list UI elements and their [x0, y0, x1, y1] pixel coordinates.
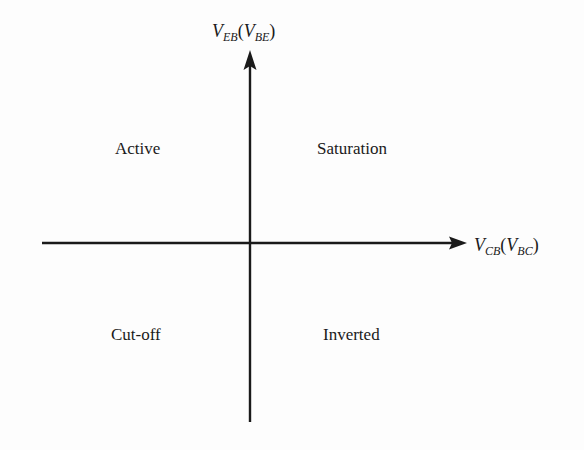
vertical-axis-subscript: EB: [223, 30, 238, 44]
horizontal-axis-subscript: CB: [485, 244, 500, 258]
horizontal-axis-close-paren: ): [533, 235, 539, 255]
quadrant-label-cut-off: Cut-off: [111, 326, 161, 343]
horizontal-axis-alt-symbol: V: [506, 235, 517, 255]
horizontal-axis-label: VCB(VBC): [474, 236, 539, 257]
quadrant-label-saturation: Saturation: [317, 140, 387, 157]
quadrant-label-inverted: Inverted: [323, 326, 380, 343]
axes: [0, 0, 584, 450]
quadrant-label-active: Active: [115, 140, 160, 157]
transistor-operating-modes-diagram: VEB(VBE) VCB(VBC) Active Saturation Cut-…: [0, 0, 584, 450]
horizontal-axis-symbol: V: [474, 235, 485, 255]
vertical-axis-label: VEB(VBE): [212, 22, 275, 43]
vertical-axis-alt-symbol: V: [244, 21, 255, 41]
horizontal-axis-alt-subscript: BC: [517, 244, 532, 258]
vertical-axis-symbol: V: [212, 21, 223, 41]
vertical-axis-close-paren: ): [269, 21, 275, 41]
vertical-axis-alt-subscript: BE: [255, 30, 270, 44]
